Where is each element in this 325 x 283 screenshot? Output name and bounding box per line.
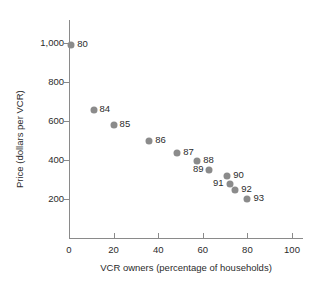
- data-point: [206, 167, 213, 174]
- data-point-label: 88: [203, 155, 214, 165]
- data-point-label: 90: [233, 170, 244, 180]
- data-point-label: 89: [193, 164, 204, 174]
- data-point: [90, 106, 97, 113]
- x-axis-tick-label: 0: [66, 245, 71, 255]
- x-axis-tick: [158, 233, 159, 238]
- x-axis-tick-label: 40: [153, 245, 164, 255]
- y-axis-title: Price (dollars per VCR): [14, 90, 25, 188]
- x-axis-tick: [247, 233, 248, 238]
- x-axis-tick-label: 100: [284, 245, 300, 255]
- data-point-label: 91: [213, 178, 224, 188]
- y-axis-tick: [64, 199, 69, 200]
- data-point-label: 87: [183, 147, 194, 157]
- y-axis-tick-label: 600: [48, 116, 64, 126]
- x-axis-tick-label: 60: [198, 245, 209, 255]
- y-axis-tick-label: 400: [48, 155, 64, 165]
- data-point: [174, 149, 181, 156]
- data-point-label: 84: [100, 104, 111, 114]
- data-point: [146, 137, 153, 144]
- y-axis-line: [69, 20, 70, 239]
- x-axis-tick-label: 20: [108, 245, 119, 255]
- y-axis-tick: [64, 160, 69, 161]
- x-axis-line: [69, 238, 303, 239]
- x-axis-title: VCR owners (percentage of households): [69, 262, 303, 273]
- data-point: [68, 41, 75, 48]
- y-axis-tick-label: 800: [48, 77, 64, 87]
- data-point-label: 86: [155, 135, 166, 145]
- data-point-label: 80: [77, 39, 88, 49]
- x-axis-tick: [203, 233, 204, 238]
- x-axis-tick-label: 80: [242, 245, 253, 255]
- data-point: [244, 196, 251, 203]
- y-axis-tick-label: 1,000: [40, 38, 64, 48]
- data-point-label: 92: [241, 184, 252, 194]
- x-axis-tick: [114, 233, 115, 238]
- scatter-chart: 2004006008001,000 020406080100 808485868…: [0, 0, 325, 283]
- data-point: [110, 122, 117, 129]
- data-point-label: 85: [120, 120, 131, 130]
- data-point: [224, 172, 231, 179]
- data-point: [226, 180, 233, 187]
- data-point: [232, 187, 239, 194]
- data-point-label: 93: [253, 194, 264, 204]
- y-axis-tick: [64, 121, 69, 122]
- y-axis-tick: [64, 82, 69, 83]
- x-axis-tick: [292, 233, 293, 238]
- y-axis-tick-label: 200: [48, 194, 64, 204]
